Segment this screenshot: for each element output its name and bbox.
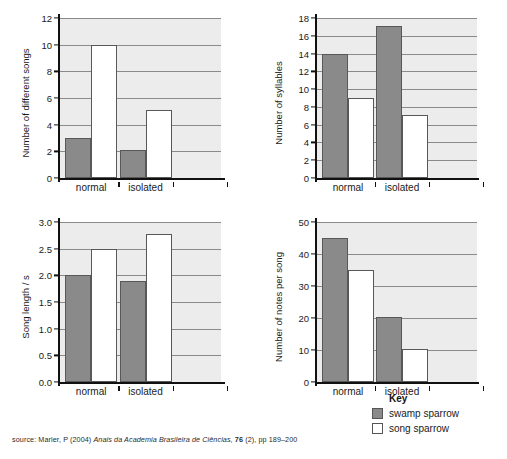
key-label-song-sparrow: song sparrow xyxy=(389,423,449,434)
key-label-swamp-sparrow: swamp sparrow xyxy=(389,408,459,419)
y-tick-label: 1.0 xyxy=(22,323,52,334)
chart-panel-syllables: Number of syllables024681012141618normal… xyxy=(253,8,506,208)
y-tick-label: 6 xyxy=(279,119,309,130)
bar-song-length-normal-song-sparrow xyxy=(91,249,117,382)
x-tick-mark xyxy=(429,386,430,391)
bar-different-songs-isolated-swamp-sparrow xyxy=(120,150,146,178)
y-axis-line xyxy=(58,14,60,182)
x-tick-mark xyxy=(173,182,174,187)
y-axis-line xyxy=(58,218,60,386)
plot-area-notes-per-song xyxy=(315,222,477,382)
plot-area-syllables xyxy=(315,18,477,178)
source-volume: 76 xyxy=(235,435,243,444)
chart-panel-notes-per-song: Number of notes per song01020304050norma… xyxy=(253,212,506,412)
y-tick-label: 18 xyxy=(279,13,309,24)
x-tick-label: normal xyxy=(333,386,364,397)
x-tick-label: normal xyxy=(333,182,364,193)
gridline xyxy=(58,249,221,250)
gridline xyxy=(58,222,221,223)
gridline xyxy=(58,45,221,46)
bar-notes-per-song-isolated-swamp-sparrow xyxy=(376,317,402,382)
bar-song-length-isolated-song-sparrow xyxy=(146,234,172,382)
x-axis-line xyxy=(58,178,225,180)
x-axis-labels-syllables: normalisolated xyxy=(315,182,479,198)
source-suffix: (2), pp 189–200 xyxy=(243,435,297,444)
bar-syllables-isolated-song-sparrow xyxy=(402,115,428,178)
y-tick-label: 14 xyxy=(279,48,309,59)
x-tick-label: isolated xyxy=(385,182,419,193)
y-tick-label: 4 xyxy=(279,137,309,148)
source-prefix: source: Marler, P (2004) xyxy=(12,435,93,444)
gridline xyxy=(58,125,221,126)
plot-area-different-songs xyxy=(58,18,221,178)
x-axis-line xyxy=(315,178,479,180)
y-tick-label: 12 xyxy=(22,13,52,24)
x-tick-label: isolated xyxy=(128,182,162,193)
key-swatch-song-sparrow xyxy=(372,423,383,434)
bar-syllables-normal-song-sparrow xyxy=(348,98,374,178)
gridline xyxy=(315,18,477,19)
y-tick-label: 2 xyxy=(279,155,309,166)
chart-panel-song-length: Song length / s0.00.51.01.52.02.53.0norm… xyxy=(0,212,253,412)
y-tick-label: 0 xyxy=(279,377,309,388)
plot-area-song-length xyxy=(58,222,221,382)
y-tick-label: 10 xyxy=(22,39,52,50)
x-axis-labels-different-songs: normalisolated xyxy=(58,182,225,198)
bar-notes-per-song-normal-swamp-sparrow xyxy=(322,238,348,382)
y-tick-label: 2 xyxy=(22,146,52,157)
bar-different-songs-isolated-song-sparrow xyxy=(146,110,172,178)
x-tick-mark xyxy=(483,182,484,187)
source-journal: Anais da Academia Brasileira de Ciências… xyxy=(93,435,232,444)
x-axis-line xyxy=(315,382,479,384)
key-row-swamp-sparrow: swamp sparrow xyxy=(372,408,507,419)
y-tick-label: 0.5 xyxy=(22,350,52,361)
chart-grid: Number of different songs024681012normal… xyxy=(0,0,507,400)
y-tick-label: 4 xyxy=(22,119,52,130)
y-tick-label: 20 xyxy=(279,313,309,324)
y-tick-label: 50 xyxy=(279,217,309,228)
x-tick-mark xyxy=(375,182,376,187)
x-tick-mark xyxy=(429,182,430,187)
bar-song-length-normal-swamp-sparrow xyxy=(65,275,91,382)
key-title: Key xyxy=(389,393,507,404)
x-tick-label: isolated xyxy=(128,386,162,397)
y-tick-label: 6 xyxy=(22,93,52,104)
gridline xyxy=(315,222,477,223)
chart-key: Key swamp sparrow song sparrow xyxy=(372,393,507,438)
source-citation: source: Marler, P (2004) Anais da Academ… xyxy=(12,435,297,444)
y-tick-label: 2.5 xyxy=(22,243,52,254)
y-tick-label: 30 xyxy=(279,281,309,292)
gridline xyxy=(58,18,221,19)
y-tick-label: 0.0 xyxy=(22,377,52,388)
bar-song-length-isolated-swamp-sparrow xyxy=(120,281,146,382)
y-axis-title-text: Number of notes per song xyxy=(271,222,287,392)
x-tick-mark xyxy=(375,386,376,391)
y-axis-line xyxy=(315,218,317,386)
x-tick-mark xyxy=(118,386,119,391)
chart-panel-different-songs: Number of different songs024681012normal… xyxy=(0,8,253,208)
y-tick-label: 12 xyxy=(279,66,309,77)
y-tick-label: 8 xyxy=(22,66,52,77)
bar-syllables-normal-swamp-sparrow xyxy=(322,54,348,178)
y-axis-line xyxy=(315,14,317,182)
y-axis-title-notes-per-song: Number of notes per song xyxy=(271,222,287,392)
bar-different-songs-normal-swamp-sparrow xyxy=(65,138,91,178)
gridline xyxy=(58,98,221,99)
y-tick-label: 8 xyxy=(279,101,309,112)
y-tick-label: 0 xyxy=(279,173,309,184)
y-tick-label: 2.0 xyxy=(22,270,52,281)
x-tick-label: normal xyxy=(76,182,107,193)
x-axis-labels-song-length: normalisolated xyxy=(58,386,225,402)
x-tick-label: normal xyxy=(76,386,107,397)
bar-notes-per-song-isolated-song-sparrow xyxy=(402,349,428,382)
bar-different-songs-normal-song-sparrow xyxy=(91,45,117,178)
x-tick-mark xyxy=(173,386,174,391)
y-tick-label: 40 xyxy=(279,249,309,260)
key-swatch-swamp-sparrow xyxy=(372,408,383,419)
x-axis-line xyxy=(58,382,225,384)
key-row-song-sparrow: song sparrow xyxy=(372,423,507,434)
x-tick-mark xyxy=(227,182,228,187)
y-tick-label: 10 xyxy=(279,345,309,356)
bar-notes-per-song-normal-song-sparrow xyxy=(348,270,374,382)
gridline xyxy=(58,71,221,72)
